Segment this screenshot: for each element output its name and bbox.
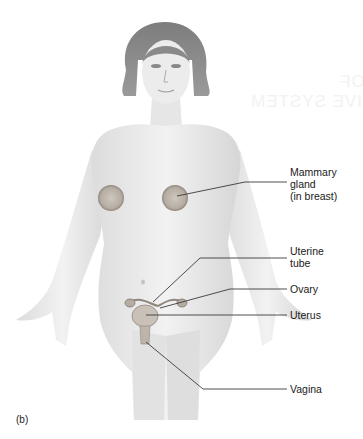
- mammary-gland-left: [98, 185, 124, 211]
- torso: [92, 124, 241, 420]
- mammary-gland-right: [162, 185, 188, 211]
- anatomy-illustration: [0, 0, 363, 439]
- label-ovary: Ovary: [290, 283, 318, 295]
- panel-label: (b): [16, 414, 28, 425]
- ovary-left: [125, 299, 135, 307]
- label-mammary-gland: Mammary gland (in breast): [290, 166, 337, 202]
- figure-canvas: FUNCTIONS OF REPRODUCTIVE SYSTEM: [0, 0, 363, 439]
- uterus: [132, 305, 158, 327]
- vagina: [140, 326, 150, 344]
- label-uterus: Uterus: [290, 309, 321, 321]
- label-vagina: Vagina: [290, 383, 322, 395]
- label-uterine-tube: Uterine tube: [290, 245, 324, 269]
